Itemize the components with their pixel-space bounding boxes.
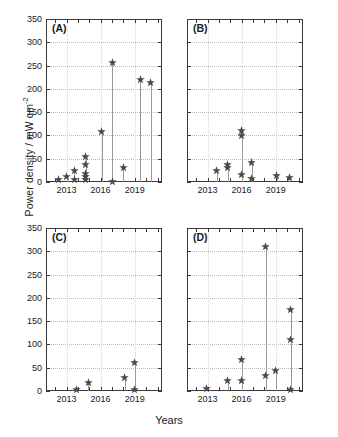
x-tick-top: [208, 228, 209, 232]
x-tick-top: [146, 228, 147, 232]
y-tick: [187, 251, 191, 252]
x-tick-label: 2016: [91, 394, 111, 404]
y-tick: [187, 159, 191, 160]
x-tick-label: 2019: [125, 185, 145, 195]
y-tick: [187, 275, 191, 276]
y-tick: [187, 182, 191, 183]
data-point-star: [81, 160, 90, 169]
x-tick: [299, 178, 300, 182]
x-tick-top: [135, 19, 136, 23]
y-tick-label: 150: [27, 316, 42, 326]
x-tick: [219, 178, 220, 182]
y-tick: [46, 135, 50, 136]
y-tick-right: [299, 391, 303, 392]
data-point-star: [223, 163, 232, 172]
y-tick: [187, 112, 191, 113]
x-tick-top: [299, 228, 300, 232]
data-point-star: [247, 158, 256, 167]
y-tick: [187, 321, 191, 322]
y-gridline: [187, 89, 303, 90]
x-tick-top: [112, 19, 113, 23]
y-tick-right: [158, 89, 162, 90]
x-tick: [135, 178, 136, 182]
data-point-star: [119, 163, 128, 172]
x-tick: [196, 178, 197, 182]
y-tick: [187, 228, 191, 229]
y-tick: [46, 321, 50, 322]
data-point-star: [271, 366, 280, 375]
x-tick: [158, 178, 159, 182]
y-tick-right: [158, 228, 162, 229]
x-tick: [219, 387, 220, 391]
y-tick: [187, 344, 191, 345]
y-tick-right: [158, 391, 162, 392]
x-tick-top: [123, 19, 124, 23]
x-tick-top: [264, 228, 265, 232]
x-tick: [101, 387, 102, 391]
y-tick-right: [158, 321, 162, 322]
y-tick-label: 250: [27, 270, 42, 280]
x-tick-top: [276, 228, 277, 232]
x-tick-top: [67, 19, 68, 23]
y-tick-right: [158, 251, 162, 252]
stem-line: [291, 310, 292, 392]
data-point-star: [120, 373, 129, 382]
y-tick-right: [299, 298, 303, 299]
x-tick-top: [242, 228, 243, 232]
panel-c: 050100150200250300350201320162019(C): [46, 228, 162, 391]
data-point-star: [261, 371, 270, 380]
y-tick-right: [299, 182, 303, 183]
y-gridline: [187, 275, 303, 276]
y-tick: [46, 298, 50, 299]
x-tick: [230, 387, 231, 391]
data-point-star: [285, 173, 294, 182]
y-tick-right: [158, 112, 162, 113]
y-tick-label: 100: [27, 130, 42, 140]
x-tick-top: [253, 228, 254, 232]
x-tick-top: [230, 19, 231, 23]
x-tick: [299, 387, 300, 391]
y-gridline: [46, 42, 162, 43]
y-tick-right: [299, 66, 303, 67]
y-tick-right: [299, 19, 303, 20]
y-tick-right: [158, 275, 162, 276]
x-tick: [55, 387, 56, 391]
y-tick-right: [299, 159, 303, 160]
x-tick-label: 2019: [266, 185, 286, 195]
y-tick-right: [158, 19, 162, 20]
y-tick: [46, 228, 50, 229]
y-tick: [187, 19, 191, 20]
x-gridline: [67, 228, 68, 391]
x-axis-label: Years: [0, 414, 338, 426]
y-tick-right: [299, 251, 303, 252]
data-point-star: [84, 378, 93, 387]
panel-d: 201320162019(D): [187, 228, 303, 391]
y-gridline: [46, 89, 162, 90]
x-tick: [158, 387, 159, 391]
y-tick-label: 200: [27, 293, 42, 303]
x-tick-top: [264, 19, 265, 23]
x-gridline: [208, 228, 209, 391]
x-tick-top: [78, 228, 79, 232]
panel-label: (C): [52, 231, 67, 243]
x-tick-label: 2019: [266, 394, 286, 404]
y-tick-right: [299, 228, 303, 229]
stem-line: [151, 82, 152, 182]
x-tick-top: [123, 228, 124, 232]
data-point-star: [130, 385, 139, 394]
y-tick-label: 50: [32, 154, 42, 164]
y-gridline: [187, 42, 303, 43]
x-tick-top: [67, 228, 68, 232]
y-tick-label: 300: [27, 37, 42, 47]
data-point-star: [286, 385, 295, 394]
x-tick-top: [112, 228, 113, 232]
y-tick-right: [158, 182, 162, 183]
data-point-star: [237, 376, 246, 385]
y-tick-right: [299, 89, 303, 90]
y-tick-right: [299, 275, 303, 276]
x-tick: [208, 178, 209, 182]
x-tick-top: [101, 228, 102, 232]
x-tick: [146, 178, 147, 182]
stem-line: [102, 132, 103, 182]
y-tick-label: 0: [37, 386, 42, 396]
